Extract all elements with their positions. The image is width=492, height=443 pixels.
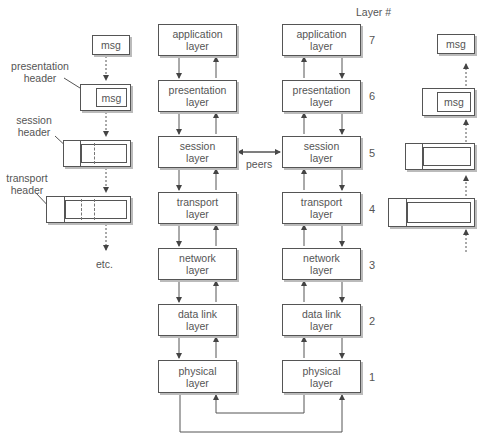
- right-transport-layer: transport layer: [282, 192, 361, 224]
- label-line1: session: [4, 114, 64, 126]
- layer-number-heading: Layer #: [356, 6, 391, 18]
- transport-header-segment: [47, 197, 65, 222]
- label-line2: header: [4, 184, 50, 196]
- dashed-divider: [94, 143, 95, 164]
- box-label-line1: data link: [178, 308, 217, 320]
- dashed-divider: [81, 199, 82, 220]
- peers-label: peers: [246, 158, 272, 170]
- right-session-packet: [405, 143, 475, 170]
- box-label-line2: layer: [310, 264, 333, 276]
- left-application-layer: application layer: [158, 24, 237, 56]
- dashed-divider: [94, 199, 95, 220]
- layer-number-4: 4: [369, 203, 375, 215]
- box-label-line2: layer: [186, 152, 209, 164]
- right-network-layer: network layer: [282, 248, 361, 280]
- box-label-line1: application: [296, 28, 346, 40]
- session-header-label: session header: [4, 114, 64, 138]
- right-application-layer: application layer: [282, 24, 361, 56]
- box-label-line1: session: [304, 140, 340, 152]
- etc-label: etc.: [96, 258, 113, 270]
- packet-payload-msg: msg: [437, 92, 471, 112]
- right-data-link-layer: data link layer: [282, 304, 361, 336]
- layer-number-5: 5: [369, 147, 375, 159]
- box-label-line2: layer: [186, 377, 209, 389]
- box-label-line1: physical: [303, 365, 341, 377]
- right-physical-layer: physical layer: [282, 360, 361, 393]
- box-label-line1: session: [180, 140, 216, 152]
- session-packet: [63, 140, 131, 167]
- layer-number-1: 1: [369, 371, 375, 383]
- session-header-segment: [64, 141, 81, 166]
- right-presentation-packet: msg: [422, 88, 475, 116]
- right-session-layer: session layer: [282, 136, 361, 168]
- left-transport-layer: transport layer: [158, 192, 237, 224]
- box-label-line2: layer: [186, 40, 209, 52]
- label-line1: transport: [4, 172, 50, 184]
- msg-label: msg: [102, 92, 122, 104]
- right-transport-packet: [388, 198, 475, 227]
- presentation-header-label: presentation header: [2, 60, 78, 84]
- box-label-line2: layer: [310, 377, 333, 389]
- packet-payload: [81, 144, 127, 163]
- transport-packet: [46, 196, 131, 223]
- presentation-packet: msg: [80, 84, 131, 111]
- box-label-line2: layer: [310, 208, 333, 220]
- layer-number-2: 2: [369, 315, 375, 327]
- packet-payload-msg: msg: [96, 88, 127, 107]
- msg-label: msg: [446, 38, 466, 50]
- box-label-line1: presentation: [293, 84, 351, 96]
- right-msg-box: msg: [437, 34, 475, 54]
- label-line2: header: [4, 126, 64, 138]
- box-label-line2: layer: [310, 320, 333, 332]
- right-presentation-layer: presentation layer: [282, 80, 361, 112]
- msg-label: msg: [101, 39, 121, 51]
- left-data-link-layer: data link layer: [158, 304, 237, 336]
- label-line2: header: [2, 72, 78, 84]
- box-label-line2: layer: [310, 96, 333, 108]
- left-session-layer: session layer: [158, 136, 237, 168]
- box-label-line1: network: [179, 252, 216, 264]
- box-label-line2: layer: [186, 264, 209, 276]
- box-label-line1: presentation: [169, 84, 227, 96]
- box-label-line1: data link: [302, 308, 341, 320]
- layer-number-7: 7: [369, 34, 375, 46]
- box-label-line2: layer: [310, 152, 333, 164]
- transport-header-segment: [389, 199, 407, 226]
- box-label-line2: layer: [186, 208, 209, 220]
- packet-payload: [65, 200, 127, 219]
- packet-payload: [423, 147, 471, 166]
- left-presentation-layer: presentation layer: [158, 80, 237, 112]
- left-physical-layer: physical layer: [158, 360, 237, 393]
- transport-header-label: transport header: [4, 172, 50, 196]
- box-label-line1: physical: [179, 365, 217, 377]
- layer-number-3: 3: [369, 259, 375, 271]
- label-line1: presentation: [2, 60, 78, 72]
- box-label-line2: layer: [310, 40, 333, 52]
- layer-number-6: 6: [369, 90, 375, 102]
- left-network-layer: network layer: [158, 248, 237, 280]
- box-label-line1: network: [303, 252, 340, 264]
- box-label-line1: transport: [177, 196, 218, 208]
- left-msg-box: msg: [92, 35, 130, 55]
- box-label-line2: layer: [186, 96, 209, 108]
- box-label-line1: application: [172, 28, 222, 40]
- packet-payload: [407, 202, 471, 223]
- box-label-line2: layer: [186, 320, 209, 332]
- session-header-segment: [406, 144, 423, 169]
- box-label-line1: transport: [301, 196, 342, 208]
- msg-label: msg: [444, 96, 464, 108]
